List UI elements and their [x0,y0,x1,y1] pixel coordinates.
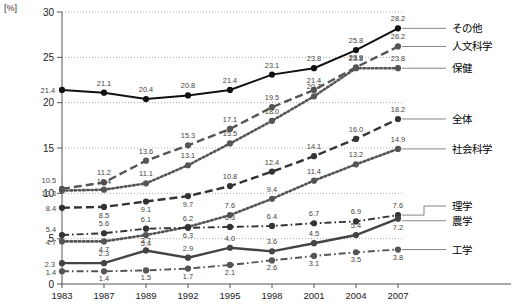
legend-item-理学[interactable]: 理学 [402,200,472,215]
data-point [227,245,233,251]
data-point-label: 12.4 [265,158,279,167]
data-point [185,142,191,148]
data-point [143,180,149,186]
legend-item-保健[interactable]: 保健 [402,62,473,74]
data-point [59,260,65,266]
data-point-label: 1.4 [99,274,109,283]
legend-item-社会科学[interactable]: 社会科学 [402,143,492,155]
data-point [185,225,191,231]
data-point [59,232,65,238]
y-tick-label: 0 [48,279,54,290]
data-point-label: 10.4 [97,177,111,186]
line-chart-svg: 0510152025301983198719891992199519982001… [0,0,519,308]
data-point [269,168,275,174]
legend-label-工学[interactable]: 工学 [452,244,472,256]
data-point [269,223,275,229]
x-tick-label: 2001 [303,290,324,301]
data-point [269,118,275,124]
legend-label-人文科学[interactable]: 人文科学 [452,40,492,52]
data-point-label: 20.4 [139,85,153,94]
data-point [101,187,107,193]
data-point [353,136,359,142]
data-point-label: 9.4 [267,185,277,194]
data-point [395,146,401,152]
x-tick-label: 1995 [219,290,240,301]
legend-item-その他[interactable]: その他 [402,22,483,34]
data-point [227,87,233,93]
data-point [395,25,401,31]
data-point [311,240,317,246]
data-point-label: 5.6 [99,219,109,228]
data-point-label: 23.1 [265,61,279,70]
data-point-label: 14.1 [307,142,321,151]
data-point-label: 13.2 [349,150,363,159]
data-point-label: 28.2 [391,14,405,23]
legend-label-全体[interactable]: 全体 [452,113,473,125]
data-point [353,65,359,71]
legend-item-全体[interactable]: 全体 [402,113,473,125]
x-tick-label: 1998 [261,290,282,301]
data-point [353,232,359,238]
data-point [101,230,107,236]
x-tick-label: 1983 [51,290,72,301]
legend-leader-line [402,206,446,215]
data-point [311,220,317,226]
x-tick-label: 2007 [387,290,408,301]
data-point-label: 16.0 [349,125,363,134]
data-point [101,260,107,266]
data-point-label: 21.4 [223,76,237,85]
data-point [185,193,191,199]
legend-item-工学[interactable]: 工学 [402,244,472,256]
data-point [269,71,275,77]
data-point-label: 4.5 [309,229,319,238]
y-tick-label: 30 [43,7,55,18]
data-point [353,161,359,167]
data-point [185,92,191,98]
data-point-label: 9.1 [141,205,151,214]
data-point [395,116,401,122]
data-point [269,196,275,202]
data-point-label: 11.4 [307,167,321,176]
data-point-label: 3.8 [393,253,403,262]
data-point [59,87,65,93]
data-point-label: 18.2 [391,105,405,114]
legend-label-理学[interactable]: 理学 [452,200,472,212]
data-point-label: 6.3 [225,213,235,222]
data-point [143,226,149,232]
chart-container: [%] 051015202530198319871989199219951998… [0,0,519,308]
data-point [311,65,317,71]
data-point [143,247,149,253]
data-point-label: 15.5 [223,129,237,138]
legend-item-人文科学[interactable]: 人文科学 [402,40,492,52]
legend-label-保健[interactable]: 保健 [452,62,473,74]
legend-label-農学[interactable]: 農学 [452,215,472,227]
data-point [311,153,317,159]
data-point-label: 7.6 [225,201,235,210]
y-tick-label: 20 [43,97,55,108]
data-point-label: 5.4 [46,225,56,234]
data-point-label: 3.7 [141,236,151,245]
data-point [101,90,107,96]
legend-label-社会科学[interactable]: 社会科学 [452,143,492,155]
data-point-label: 4.0 [225,234,235,243]
data-point [395,43,401,49]
data-point-label: 3.1 [309,259,319,268]
x-tick-label: 2004 [345,290,366,301]
data-point-label: 1.4 [46,268,56,277]
data-point-label: 23.8 [349,54,363,63]
data-point [101,204,107,210]
data-point-label: 10.5 [42,176,56,185]
data-point-label: 4.7 [46,238,56,247]
data-point [143,158,149,164]
data-point [185,162,191,168]
data-point-label: 8.4 [46,204,56,213]
data-point-label: 23.8 [391,54,405,63]
data-point-label: 13.1 [181,151,195,160]
data-point [59,205,65,211]
data-point-label: 7.2 [393,223,403,232]
legend-label-その他[interactable]: その他 [452,22,483,34]
data-point-label: 10.3 [42,189,56,198]
legend-item-農学[interactable]: 農学 [402,215,472,227]
data-point-label: 6.2 [183,214,193,223]
data-point-label: 18.0 [265,107,279,116]
